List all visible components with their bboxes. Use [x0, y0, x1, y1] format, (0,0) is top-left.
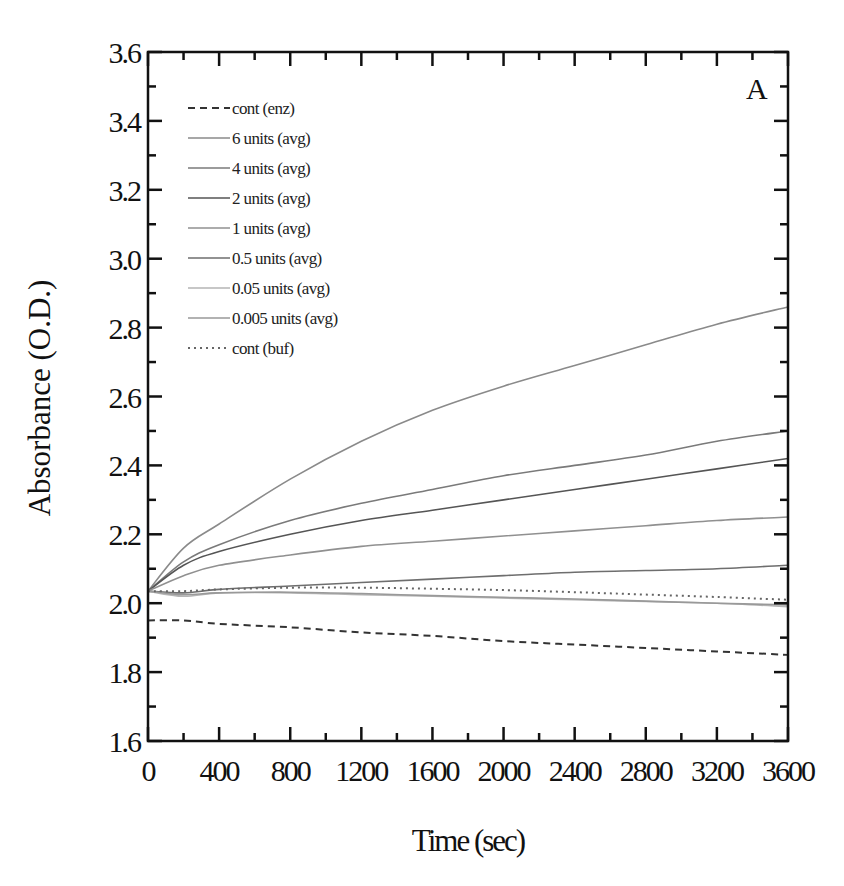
y-tick-label: 1.8 — [109, 656, 142, 689]
y-axis-ticks: 1.61.82.02.22.42.62.83.03.23.43.6 — [109, 36, 789, 758]
legend-label: 4 units (avg) — [232, 159, 310, 178]
x-tick-label: 3200 — [691, 754, 744, 787]
absorbance-time-chart: 1.61.82.02.22.42.62.83.03.23.43.6 040080… — [0, 0, 844, 886]
y-axis-title: Absorbance (O.D.) — [22, 280, 57, 517]
panel-label: A — [746, 72, 768, 105]
x-tick-label: 800 — [271, 754, 311, 787]
x-tick-label: 2400 — [549, 754, 602, 787]
y-tick-label: 2.0 — [109, 587, 142, 620]
legend-label: 0.005 units (avg) — [232, 309, 337, 328]
y-tick-label: 3.2 — [109, 174, 142, 207]
y-tick-label: 2.4 — [109, 449, 143, 482]
legend-label: cont (enz) — [232, 99, 294, 118]
series-line-6 — [148, 591, 788, 607]
x-tick-label: 400 — [200, 754, 240, 787]
x-tick-label: 2800 — [620, 754, 673, 787]
x-tick-label: 0 — [142, 754, 156, 787]
x-tick-label: 3600 — [762, 754, 815, 787]
series-line-3 — [148, 459, 788, 592]
legend-label: 0.5 units (avg) — [232, 249, 322, 268]
legend-label: 2 units (avg) — [232, 189, 310, 208]
y-tick-label: 2.8 — [109, 312, 142, 345]
x-tick-label: 1200 — [335, 754, 388, 787]
y-tick-label: 3.4 — [109, 105, 143, 138]
series-line-0 — [148, 620, 788, 655]
series-line-4 — [148, 517, 788, 591]
legend: cont (enz)6 units (avg)4 units (avg)2 un… — [188, 99, 337, 358]
x-axis-title: Time (sec) — [412, 823, 525, 858]
y-tick-label: 1.6 — [109, 725, 143, 758]
legend-label: cont (buf) — [232, 339, 294, 358]
legend-label: 0.05 units (avg) — [232, 279, 330, 298]
x-tick-label: 2000 — [478, 754, 531, 787]
legend-label: 6 units (avg) — [232, 129, 310, 148]
series-layer — [148, 307, 788, 655]
y-tick-label: 2.2 — [109, 518, 142, 551]
legend-label: 1 units (avg) — [232, 219, 310, 238]
y-tick-label: 3.6 — [109, 36, 143, 69]
x-tick-label: 1600 — [406, 754, 459, 787]
series-line-2 — [148, 431, 788, 591]
plot-frame — [148, 52, 788, 741]
y-tick-label: 3.0 — [109, 243, 142, 276]
axes-layer — [148, 52, 788, 741]
y-tick-label: 2.6 — [109, 381, 143, 414]
